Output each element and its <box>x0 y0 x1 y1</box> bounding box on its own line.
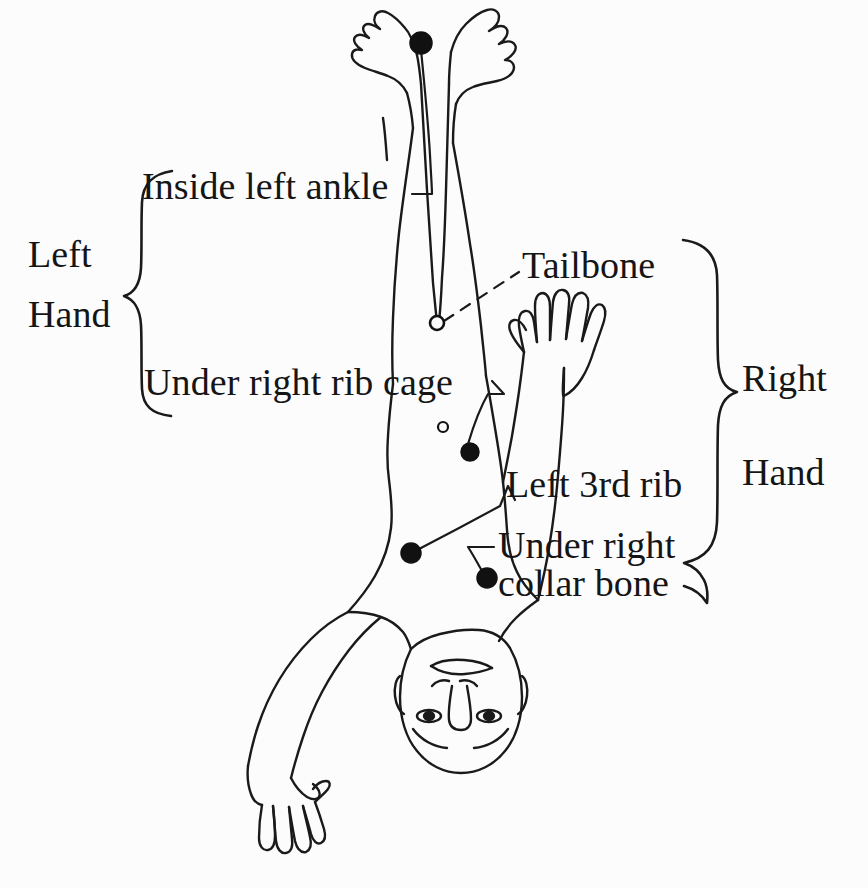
label-tailbone: Tailbone <box>522 245 655 285</box>
legs <box>392 84 486 384</box>
under-right-rib-cage-point <box>461 443 479 461</box>
right-brace-label-line2: Hand <box>742 452 825 492</box>
leader-collar-bone <box>468 547 494 571</box>
tailbone-point <box>430 316 444 330</box>
label-under-right-rib-cage: Under right rib cage <box>144 362 453 402</box>
diagram-page: Inside left ankle Left Hand Under right … <box>0 0 868 888</box>
right-foot <box>449 9 516 143</box>
left-arm-hanging <box>248 612 381 853</box>
under-right-collar-bone-point <box>477 568 497 588</box>
label-inside-left-ankle: Inside left ankle <box>142 166 389 206</box>
left-brace-label-line2: Hand <box>28 294 111 334</box>
leader-rib-cage <box>468 381 504 444</box>
figure-drawing <box>0 0 868 888</box>
left-3rd-rib-point <box>401 543 421 563</box>
left-brace-label-line1: Left <box>28 234 92 274</box>
head <box>395 630 528 773</box>
label-under-right-collar-bone: Under right collar bone <box>498 525 675 604</box>
small-hollow-point <box>438 422 448 432</box>
shoulders-neck <box>348 600 538 649</box>
label-under-right-collar-bone-line1: Under right <box>498 524 675 566</box>
leader-tailbone <box>444 272 519 321</box>
right-brace-label-line1: Right <box>742 358 827 398</box>
right-brace <box>682 240 737 603</box>
inside-left-ankle-point <box>410 32 432 54</box>
label-under-right-collar-bone-line2: collar bone <box>498 563 675 603</box>
label-left-3rd-rib: Left 3rd rib <box>506 464 682 504</box>
